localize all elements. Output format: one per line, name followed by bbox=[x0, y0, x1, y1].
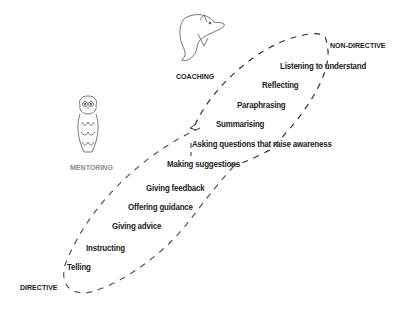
skill-paraphrasing: Paraphrasing bbox=[237, 100, 286, 110]
coaching-mentoring-spectrum-diagram: COACHING MENTORING DIRECTIVE NON-DIRECTI… bbox=[0, 0, 404, 314]
skill-reflecting: Reflecting bbox=[262, 80, 299, 90]
directive-label: DIRECTIVE bbox=[20, 283, 58, 292]
skill-giving-feedback: Giving feedback bbox=[146, 183, 205, 193]
skill-listening: Listening to understand bbox=[280, 61, 366, 71]
skill-asking-questions: Asking questions that raise awareness bbox=[192, 139, 332, 149]
non-directive-label: NON-DIRECTIVE bbox=[330, 41, 386, 50]
skill-offering-guidance: Offering guidance bbox=[128, 202, 193, 212]
skill-giving-advice: Giving advice bbox=[112, 221, 161, 231]
skill-making-suggestions: Making suggestions bbox=[167, 159, 240, 169]
skill-telling: Telling bbox=[67, 262, 91, 272]
skill-instructing: Instructing bbox=[86, 243, 125, 253]
coaching-label: COACHING bbox=[176, 72, 214, 81]
mentoring-label: MENTORING bbox=[70, 163, 113, 172]
dolphin-icon bbox=[180, 15, 224, 61]
owl-icon bbox=[78, 96, 98, 152]
skill-summarising: Summarising bbox=[216, 119, 264, 129]
